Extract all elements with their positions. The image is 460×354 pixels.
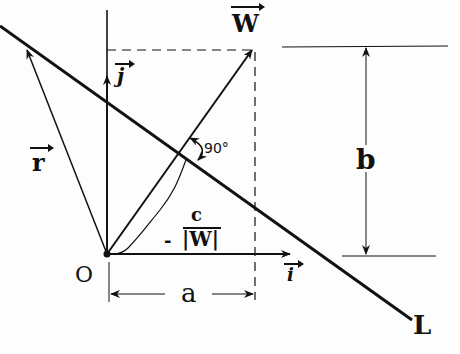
- distance-sign: -: [164, 232, 171, 250]
- b-top-ext: [282, 46, 448, 47]
- L-label: L: [413, 312, 431, 338]
- distance-brace: [113, 160, 186, 254]
- vector-line-diagram: O i j r W 90° - c |W| a b L: [0, 0, 460, 354]
- w-vector: [107, 50, 252, 254]
- distance-numerator: c: [191, 206, 202, 224]
- line-L: [0, 26, 412, 320]
- diagram-drawing: [0, 0, 460, 354]
- a-label: a: [181, 280, 197, 306]
- origin-point: [104, 251, 111, 258]
- angle-label: 90°: [204, 141, 229, 155]
- origin-label: O: [75, 264, 93, 286]
- b-label: b: [356, 146, 376, 174]
- j-label: j: [117, 66, 124, 86]
- distance-denominator: |W|: [182, 229, 219, 249]
- r-label: r: [32, 151, 45, 175]
- w-label: W: [232, 12, 259, 36]
- i-label: i: [287, 266, 294, 284]
